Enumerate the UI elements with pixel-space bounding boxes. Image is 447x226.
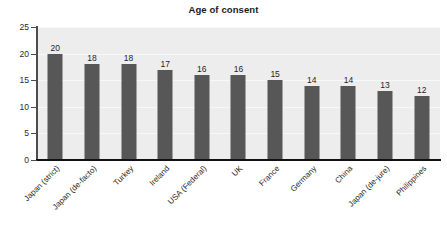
bar-value-label: 14 [344,75,353,85]
category-label-slot: Philippines [403,162,440,226]
category-label-slot: Japan (de-facto) [74,162,111,226]
y-axis-tick-mark [31,160,37,161]
y-axis-tick-mark [31,54,37,55]
y-axis-tick-label: 20 [1,49,29,59]
bar-slot: 13 [367,27,404,160]
x-axis-category-label: UK [231,164,245,178]
bar[interactable] [194,75,209,160]
bar-value-label: 20 [51,43,60,53]
y-axis-tick-label: 15 [1,75,29,85]
bar[interactable] [158,70,173,160]
bar-slot: 18 [74,27,111,160]
bar-slot: 15 [257,27,294,160]
bar-chart: Age of consent 0510152025 20181817161615… [0,0,447,226]
bar-slot: 12 [403,27,440,160]
bar[interactable] [268,80,283,160]
y-axis-tick-label: 5 [1,128,29,138]
bar[interactable] [48,54,63,160]
bar[interactable] [231,75,246,160]
bar-value-label: 16 [234,64,243,74]
category-label-slot: Turkey [110,162,147,226]
y-axis-tick-mark [31,133,37,134]
category-label-slot: Germany [293,162,330,226]
bar-value-label: 17 [160,59,169,69]
category-label-slot: USA (Federal) [184,162,221,226]
bar-value-label: 18 [124,53,133,63]
bar-slot: 16 [184,27,221,160]
x-axis-line [36,159,441,161]
bar-slot: 20 [37,27,74,160]
bar-value-label: 14 [307,75,316,85]
y-axis-tick-label: 0 [1,155,29,165]
bar-slot: 16 [220,27,257,160]
y-axis-tick-label: 10 [1,102,29,112]
bar-slot: 18 [110,27,147,160]
y-axis-tick-mark [31,27,37,28]
x-axis-category-label: France [258,164,282,188]
bar-slot: 14 [293,27,330,160]
y-axis-tick-label: 25 [1,22,29,32]
plot-area: 2018181716161514141312 [37,27,440,160]
y-axis-tick-labels: 0510152025 [0,0,29,226]
x-axis-category-label: Turkey [111,164,134,187]
bar-slot: 17 [147,27,184,160]
x-axis-category-label: Germany [288,164,318,194]
y-axis-tick-mark [31,80,37,81]
x-axis-category-label: Ireland [148,164,172,188]
category-label-slot: UK [220,162,257,226]
bar[interactable] [378,91,393,160]
bar-value-label: 15 [270,69,279,79]
bar[interactable] [304,86,319,160]
bar-value-label: 18 [87,53,96,63]
bar[interactable] [84,64,99,160]
bar-value-label: 13 [380,80,389,90]
bar-slot: 14 [330,27,367,160]
category-label-slot: France [257,162,294,226]
x-axis-category-labels: Japan (strict)Japan (de-facto)TurkeyIrel… [37,162,440,226]
x-axis-category-label: China [334,164,355,185]
bar[interactable] [414,96,429,160]
y-axis-tick-mark [31,107,37,108]
bar[interactable] [341,86,356,160]
bar-value-label: 16 [197,64,206,74]
bar[interactable] [121,64,136,160]
chart-title: Age of consent [0,4,447,15]
y-axis-line [36,26,38,161]
bar-value-label: 12 [417,85,426,95]
